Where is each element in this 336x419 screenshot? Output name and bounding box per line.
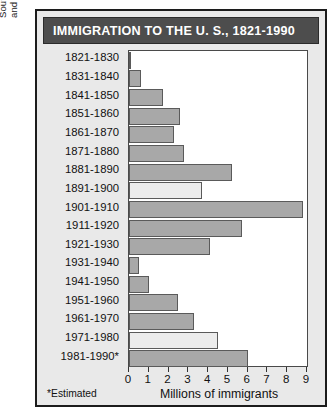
plot-box [128,50,308,367]
category-label: 1861-1870 [65,126,119,138]
x-axis-title: Millions of immigrants [128,387,310,401]
bar-1831-1840 [129,70,141,87]
x-tick-label: 7 [263,373,269,385]
bar-1891-1900 [129,182,202,199]
bar-1921-1930 [129,238,210,255]
x-tick-label: 3 [184,373,190,385]
bar-1861-1870 [129,126,174,143]
bar-1971-1980 [129,332,218,349]
x-tick-mark [247,367,248,372]
bar-1911-1920 [129,220,242,237]
source-citation: Source: Statistical Abstract of the Unit… [0,0,27,30]
page-title: IMMIGRATION TO THE U. S., 1821-1990 [53,24,295,38]
category-label: 1981-1990* [61,350,119,362]
bar-1901-1910 [129,201,303,218]
chart-figure: Source: Statistical Abstract of the Unit… [0,0,336,419]
bar-1931-1940 [129,257,139,274]
x-tick-mark [286,367,287,372]
x-tick-label: 1 [145,373,151,385]
x-tick-mark [148,367,149,372]
category-label: 1891-1900 [65,182,119,194]
plot-area: 1821-18301831-18401841-18501851-18601861… [43,49,319,401]
x-tick-mark [128,367,129,372]
category-label: 1911-1920 [66,219,119,231]
bar-1951-1960 [129,294,178,311]
category-label: 1831-1840 [65,70,119,82]
x-tick-mark [168,367,169,372]
category-label: 1941-1950 [65,275,119,287]
x-tick-label: 6 [243,373,249,385]
category-label: 1961-1970 [65,312,119,324]
bar-1981-1990 [129,350,248,367]
bar-1881-1890 [129,164,232,181]
chart-title-band: IMMIGRATION TO THE U. S., 1821-1990 [43,17,319,44]
category-label: 1971-1980 [65,331,119,343]
bar-1821-1830 [129,52,131,69]
category-axis-labels: 1821-18301831-18401841-18501851-18601861… [43,49,125,369]
category-label: 1951-1960 [65,294,119,306]
x-tick-mark [227,367,228,372]
category-label: 1901-1910 [65,201,119,213]
category-label: 1921-1930 [65,238,119,250]
x-tick-mark [266,367,267,372]
category-label: 1851-1860 [65,107,119,119]
category-label: 1881-1890 [65,163,119,175]
x-tick-mark [306,367,307,372]
x-tick-mark [187,367,188,372]
bar-1941-1950 [129,276,149,293]
source-prefix: Source: [0,0,8,18]
x-tick-label: 8 [283,373,289,385]
bar-1851-1860 [129,108,180,125]
x-tick-label: 0 [125,373,131,385]
bar-1871-1880 [129,145,184,162]
category-label: 1841-1850 [65,89,119,101]
x-tick-label: 5 [224,373,230,385]
footnote-estimated: *Estimated [47,388,97,399]
category-label: 1871-1880 [65,145,119,157]
bar-1961-1970 [129,313,194,330]
x-tick-label: 2 [164,373,170,385]
x-tick-mark [207,367,208,372]
bar-1841-1850 [129,89,163,106]
x-tick-label: 9 [303,373,309,385]
category-label: 1931-1940 [65,256,119,268]
x-tick-label: 4 [204,373,210,385]
category-label: 1821-1830 [65,51,119,63]
chart-card: IMMIGRATION TO THE U. S., 1821-1990 1821… [35,9,327,407]
